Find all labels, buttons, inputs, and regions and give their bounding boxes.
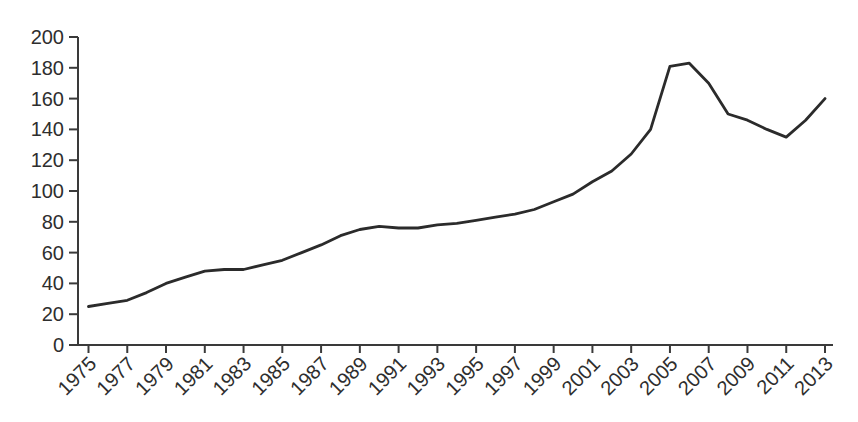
x-axis-label: 1979 [131,352,178,399]
x-axis-label: 1983 [208,352,255,399]
y-axis: 020406080100120140160180200 [31,26,78,356]
x-axis-label: 1981 [170,352,217,399]
x-axis-label: 1975 [53,352,100,399]
y-axis-label: 20 [42,303,64,325]
x-axis-label: 1995 [441,352,488,399]
x-axis: 1975197719791981198319851987198919911993… [53,345,837,399]
y-axis-label: 60 [42,242,64,264]
x-axis-label: 1991 [363,352,410,399]
axes-spines [78,37,833,345]
x-axis-label: 2011 [752,352,798,398]
x-axis-label: 2009 [712,352,759,399]
x-axis-label: 1987 [286,352,333,399]
data-line-series [89,63,826,306]
y-axis-label: 80 [42,211,64,233]
x-axis-label: 1985 [247,352,294,399]
y-axis-label: 140 [31,118,64,140]
y-axis-label: 180 [31,57,64,79]
x-axis-label: 1993 [402,352,449,399]
y-axis-label: 120 [31,149,64,171]
y-axis-label: 160 [31,88,64,110]
y-axis-label: 100 [31,180,64,202]
y-axis-label: 0 [53,334,64,356]
line-chart-figure: 0204060801001201401601802001975197719791… [0,0,858,422]
y-axis-label: 200 [31,26,64,48]
x-axis-label: 2013 [790,352,837,399]
y-axis-label: 40 [42,272,64,294]
x-axis-label: 2001 [557,352,604,399]
x-axis-label: 1989 [325,352,372,399]
x-axis-label: 1977 [92,352,139,399]
x-axis-label: 2003 [596,352,643,399]
x-axis-label: 1999 [518,352,565,399]
line-chart: 0204060801001201401601802001975197719791… [0,0,858,422]
x-axis-label: 2007 [674,352,721,399]
x-axis-label: 1997 [480,352,527,399]
x-axis-label: 2005 [635,352,682,399]
